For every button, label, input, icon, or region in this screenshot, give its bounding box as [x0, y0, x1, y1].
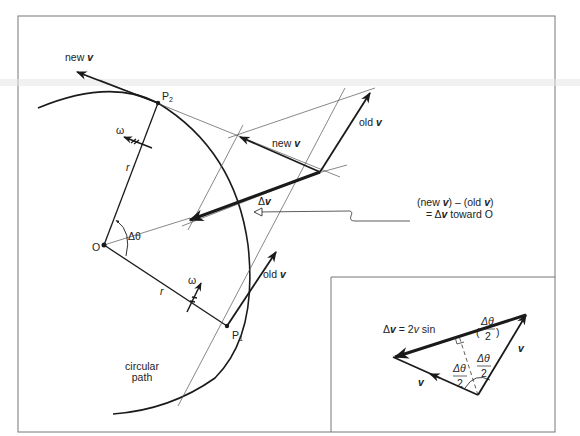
svg-text:2: 2: [481, 367, 487, 379]
tangent-at-p1: [178, 88, 345, 406]
circular-motion-diagram: new v P2 ω r O Δθ r ω P1 old v new v old…: [0, 0, 580, 436]
svg-text:Δθ: Δθ: [480, 315, 494, 327]
scan-band: [0, 79, 580, 86]
svg-text:Δθ: Δθ: [476, 352, 490, 364]
label-r-bottom: r: [160, 285, 164, 297]
delta-theta-arc: [117, 221, 128, 256]
svg-text:2: 2: [485, 330, 491, 342]
label-delta-theta: Δθ: [128, 230, 141, 242]
svg-text:2: 2: [457, 377, 463, 389]
svg-text:(: (: [476, 326, 480, 338]
construction-line-parallel: [188, 125, 243, 230]
new-v-vector-p2: [77, 72, 158, 103]
label-delta-v: Δv: [258, 195, 272, 207]
annotation-leader: [255, 211, 410, 221]
label-old-v-top: old v: [359, 116, 383, 128]
inset-label-v-right: v: [518, 342, 525, 354]
annotation-line-2: = Δv toward O: [426, 208, 493, 220]
label-p1: P1: [232, 329, 243, 342]
old-v-vector-p1: [227, 252, 276, 326]
inset-right-half-angle: Δθ 2: [476, 352, 491, 379]
label-omega-bottom: ω: [188, 274, 196, 286]
construction-line-top: [228, 88, 375, 138]
label-p2: P2: [162, 90, 173, 103]
label-old-v-bottom: old v: [263, 268, 287, 280]
label-origin-o: O: [92, 241, 100, 253]
svg-text:): ): [496, 326, 500, 338]
outer-frame: [18, 16, 555, 432]
omega-arrow-top: [124, 137, 152, 148]
inset-v-left-arrow: [430, 374, 440, 378]
annotation-arrowhead-icon: [254, 208, 262, 216]
label-new-v-top: new v: [65, 51, 94, 63]
point-p1: [225, 324, 229, 328]
label-circular-path-2: path: [132, 371, 153, 383]
label-r-top: r: [126, 161, 130, 173]
label-new-v-mid: new v: [272, 137, 301, 149]
old-v-vector-triangle: [320, 93, 370, 172]
annotation-line-1: (new v) – (old v): [417, 196, 493, 208]
radius-to-p2: [104, 103, 158, 245]
radius-to-p1: [104, 245, 227, 326]
inset-formula: Δv = 2v sin: [383, 323, 435, 335]
inset-delta-v: [395, 315, 526, 357]
inset-frame: [331, 277, 555, 432]
svg-text:Δθ: Δθ: [452, 362, 466, 374]
point-p2: [156, 101, 160, 105]
label-omega-top: ω: [116, 124, 124, 136]
bisector-line: [104, 218, 190, 245]
inset-label-v-left: v: [418, 376, 425, 388]
point-o: [102, 243, 107, 248]
